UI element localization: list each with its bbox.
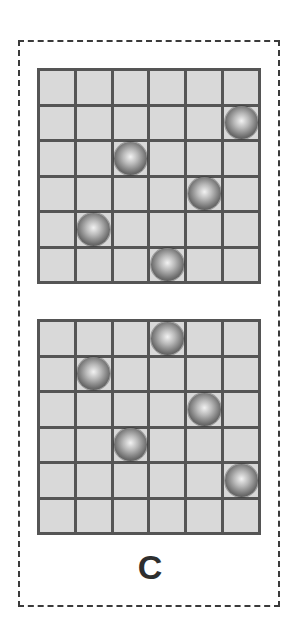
grid-cell <box>114 322 148 355</box>
grid-cell <box>187 107 221 140</box>
grid-cell <box>40 464 74 497</box>
grid-cell <box>40 178 74 211</box>
grid-cell <box>224 393 258 426</box>
grid-cell <box>77 500 111 533</box>
grid-cell <box>224 178 258 211</box>
grid-cell <box>150 213 184 246</box>
grid-cell <box>187 429 221 462</box>
grid-cell <box>40 249 74 282</box>
grid-cell <box>114 500 148 533</box>
option-label: C <box>0 548 300 587</box>
grid-cell <box>114 393 148 426</box>
grid-cell <box>114 464 148 497</box>
top-grid <box>37 68 261 284</box>
grid-cell <box>224 142 258 175</box>
grid-cell <box>114 107 148 140</box>
ball-icon <box>77 213 110 246</box>
grid-cell <box>114 429 148 462</box>
grid-cell <box>77 107 111 140</box>
ball-icon <box>188 177 221 210</box>
grid-cell <box>187 249 221 282</box>
grid-cell <box>77 178 111 211</box>
grid-cell <box>187 71 221 104</box>
grid-cell <box>77 71 111 104</box>
grid-cell <box>224 429 258 462</box>
ball-icon <box>114 142 147 175</box>
grid-cell <box>150 142 184 175</box>
grid-cell <box>114 213 148 246</box>
grid-cell <box>224 107 258 140</box>
grid-cell <box>150 107 184 140</box>
grid-cell <box>114 71 148 104</box>
grid-cell <box>77 142 111 175</box>
ball-icon <box>188 393 221 426</box>
grid-cell <box>40 213 74 246</box>
ball-icon <box>77 357 110 390</box>
grid-cell <box>187 358 221 391</box>
grid-cell <box>77 358 111 391</box>
grid-cell <box>224 213 258 246</box>
grid-cell <box>224 464 258 497</box>
grid-cell <box>77 393 111 426</box>
grid-cell <box>150 464 184 497</box>
grid-cell <box>150 178 184 211</box>
grid-cell <box>77 249 111 282</box>
grid-cell <box>114 358 148 391</box>
grid-cell <box>77 464 111 497</box>
ball-icon <box>151 248 184 281</box>
grid-cell <box>40 71 74 104</box>
bottom-grid <box>37 319 261 535</box>
grid-cell <box>224 358 258 391</box>
ball-icon <box>225 106 258 139</box>
grid-cell <box>187 464 221 497</box>
grid-cell <box>224 500 258 533</box>
grid-cell <box>187 213 221 246</box>
grid-cell <box>77 213 111 246</box>
grid-cell <box>150 429 184 462</box>
grid-cell <box>40 322 74 355</box>
grid-cell <box>40 429 74 462</box>
grid-cell <box>40 500 74 533</box>
grid-cell <box>114 142 148 175</box>
ball-icon <box>225 464 258 497</box>
grid-cell <box>224 322 258 355</box>
grid-cell <box>150 322 184 355</box>
grid-cell <box>77 322 111 355</box>
grid-cell <box>187 142 221 175</box>
grid-cell <box>224 249 258 282</box>
grid-cell <box>150 500 184 533</box>
ball-icon <box>114 428 147 461</box>
grid-cell <box>224 71 258 104</box>
grid-cell <box>150 71 184 104</box>
grid-cell <box>77 429 111 462</box>
grid-cell <box>40 107 74 140</box>
grid-cell <box>40 393 74 426</box>
grid-cell <box>187 322 221 355</box>
grid-cell <box>150 393 184 426</box>
grid-cell <box>187 393 221 426</box>
grid-cell <box>187 178 221 211</box>
grid-cell <box>114 178 148 211</box>
grid-cell <box>114 249 148 282</box>
grid-cell <box>187 500 221 533</box>
ball-icon <box>151 322 184 355</box>
grid-cell <box>150 249 184 282</box>
grid-cell <box>40 142 74 175</box>
grid-cell <box>40 358 74 391</box>
grid-cell <box>150 358 184 391</box>
